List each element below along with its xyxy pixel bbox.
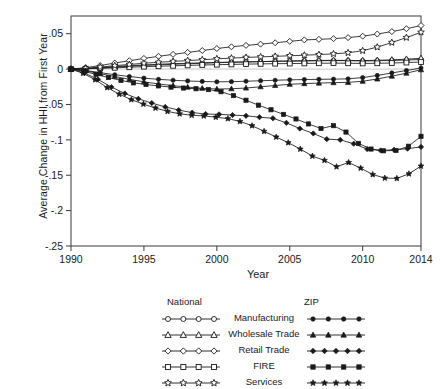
series-point	[403, 34, 410, 40]
legend-group-national: National	[167, 296, 202, 307]
series-point	[272, 40, 278, 46]
series-point	[331, 36, 337, 42]
legend-marker	[311, 365, 315, 369]
legend-marker	[322, 348, 328, 354]
series-point	[359, 47, 366, 53]
series-point	[273, 78, 277, 82]
series-point	[273, 61, 278, 66]
legend-key-zip	[305, 313, 367, 325]
series-point	[394, 148, 398, 152]
legend-marker	[212, 317, 217, 322]
legend-marker	[196, 348, 202, 354]
chart-figure: Average Change in HHI from First Year .0…	[0, 0, 444, 389]
series-point	[344, 130, 348, 134]
legend-marker	[345, 348, 351, 354]
series-point	[257, 115, 262, 120]
legend-label: FIRE	[228, 360, 300, 371]
series-point	[306, 122, 310, 126]
series-point	[374, 44, 381, 50]
legend-marker	[165, 332, 171, 338]
series-point	[258, 41, 264, 47]
series-point	[244, 62, 249, 67]
legend-key-zip	[305, 377, 367, 389]
axis-layer: .050-.05-.1-.15-.2-.25199019952000200520…	[45, 16, 433, 265]
x-tick-label: 1995	[132, 253, 156, 265]
legend-marker	[333, 348, 339, 354]
legend-key-zip	[305, 361, 367, 373]
legend-key-national	[160, 345, 222, 357]
legend-key-national	[160, 329, 222, 341]
series-point	[186, 79, 190, 83]
series-point	[370, 171, 376, 177]
series-point	[418, 23, 424, 29]
series-layer	[68, 23, 425, 181]
legend-key-national-svg	[160, 361, 222, 373]
series-point	[206, 88, 210, 92]
series-point	[356, 141, 360, 145]
x-tick-label: 2014	[409, 253, 433, 265]
legend-key-national-svg	[160, 377, 222, 389]
series-point	[170, 51, 176, 57]
legend-key-zip-svg	[305, 377, 367, 389]
legend-key-national	[160, 377, 222, 389]
series-point	[243, 113, 248, 118]
series-point	[286, 52, 293, 58]
series-point	[389, 29, 395, 35]
legend-marker	[356, 380, 362, 386]
series-point	[281, 112, 285, 116]
legend-row[interactable]: Manufacturing	[0, 311, 444, 327]
series-point	[324, 137, 329, 142]
series-point	[269, 108, 273, 112]
series-point	[301, 52, 308, 58]
legend-marker	[165, 348, 171, 354]
series-point	[419, 134, 423, 138]
legend-row[interactable]: Retail Trade	[0, 343, 444, 359]
series-point	[302, 61, 307, 66]
legend-label: Manufacturing	[228, 312, 300, 323]
series-point	[360, 61, 365, 66]
legend-marker	[181, 317, 186, 322]
series-point	[316, 51, 323, 57]
series-point	[228, 55, 235, 61]
series-point	[141, 101, 147, 107]
legend-row[interactable]: Wholesale Trade	[0, 327, 444, 343]
legend-row[interactable]: Services	[0, 375, 444, 389]
y-tick-label: .05	[48, 27, 63, 39]
legend-marker	[211, 348, 217, 354]
series-point	[319, 126, 323, 130]
series-point	[287, 61, 292, 66]
series-point	[257, 53, 264, 59]
series-point	[331, 124, 335, 128]
series-point	[394, 175, 400, 181]
series-point	[374, 31, 380, 37]
series-point	[258, 62, 263, 67]
legend-marker	[357, 365, 361, 369]
series-point	[294, 117, 298, 121]
legend-marker	[357, 317, 361, 321]
series-point	[106, 75, 110, 79]
series-point	[176, 107, 181, 112]
series-point	[285, 140, 291, 146]
series-point	[351, 141, 356, 146]
series-point	[297, 126, 302, 131]
series-point	[418, 144, 423, 149]
legend-marker	[341, 365, 345, 369]
legend-marker	[196, 317, 201, 322]
legend-marker	[180, 379, 187, 386]
series-point	[231, 94, 235, 98]
legend-key-zip-svg	[305, 329, 367, 341]
series-point	[199, 48, 205, 54]
series-point	[345, 49, 352, 55]
series-point	[243, 42, 249, 48]
series-point	[389, 39, 396, 45]
legend-key-national-svg	[160, 313, 222, 325]
legend-marker	[195, 379, 202, 386]
legend-key-national-svg	[160, 345, 222, 357]
series-point	[185, 49, 191, 55]
legend-marker	[212, 365, 217, 370]
legend-key-national	[160, 361, 222, 373]
series-point	[237, 118, 243, 124]
series-point	[169, 85, 173, 89]
legend-row[interactable]: FIRE	[0, 359, 444, 375]
series-point	[128, 97, 134, 103]
